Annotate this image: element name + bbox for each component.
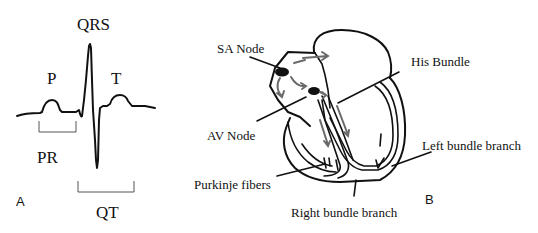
purkinje-fibers-leader-line: [277, 164, 325, 176]
his-bundle-leader-line: [338, 72, 399, 103]
purkinje-fibers-label: Purkinje fibers: [194, 177, 271, 192]
sa-node-leader-line: [250, 57, 280, 68]
qt-interval-bracket: [78, 181, 134, 192]
pr-interval-label: PR: [37, 148, 58, 167]
left-ventricle-outer-wall: [284, 78, 405, 182]
av-node-dot: [308, 87, 320, 95]
heart-conduction-panel: SA Node AV Node His Bundle Left bundle b…: [194, 30, 521, 220]
right-bundle-branch-leader-line: [354, 180, 356, 196]
conduction-arrows: [277, 52, 349, 146]
his-bundle-label: His Bundle: [411, 54, 470, 69]
ecg-panel: QRS P T PR QT A: [16, 15, 155, 222]
qrs-label: QRS: [77, 15, 110, 34]
left-bundle-branch-label: Left bundle branch: [422, 138, 521, 153]
av-node-label: AV Node: [207, 128, 256, 143]
qt-interval-label: QT: [96, 203, 119, 222]
left-bundle-branch-leader-line: [392, 152, 431, 166]
purkinje-fiber-ticks: [324, 134, 384, 170]
sa-node-dot: [275, 68, 289, 77]
right-bundle-branch-label: Right bundle branch: [291, 205, 398, 220]
right-ventricle-inner-wall-2: [302, 144, 332, 166]
p-wave-label: P: [47, 69, 56, 88]
panel-b-letter: B: [425, 192, 434, 207]
panel-a-letter: A: [16, 194, 25, 209]
left-ventricle-inner-wall-2: [330, 86, 393, 166]
right-atrium-outline: [270, 52, 315, 126]
pr-interval-bracket: [39, 121, 76, 132]
figure-canvas: QRS P T PR QT A: [0, 0, 538, 233]
sa-node-label: SA Node: [217, 41, 265, 56]
t-wave-label: T: [111, 69, 122, 88]
